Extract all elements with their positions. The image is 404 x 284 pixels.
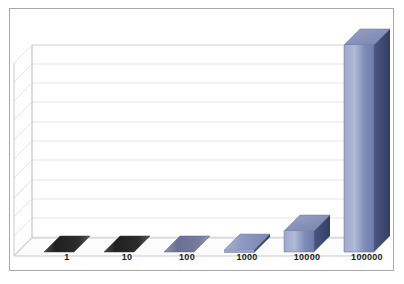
bar-100000[interactable] (344, 29, 390, 252)
x-axis-label-1000: 1000 (236, 252, 257, 262)
x-axis-label-1: 1 (64, 252, 69, 262)
x-axis-label-10000: 10000 (294, 252, 321, 262)
x-axis-label-100: 100 (179, 252, 195, 262)
chart-plot-area (10, 9, 393, 270)
x-axis-label-10: 10 (122, 252, 133, 262)
x-axis-label-100000: 100000 (351, 252, 383, 262)
gridlines-group (32, 45, 385, 238)
value-axis (14, 45, 32, 256)
chart-frame: 1 10 100 1000 10000 100000 (9, 8, 394, 271)
